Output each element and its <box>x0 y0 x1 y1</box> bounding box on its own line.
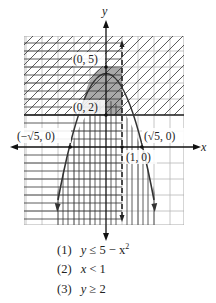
inequality-number: (2) <box>57 262 72 276</box>
point-label-0-2: (0, 2) <box>73 101 98 114</box>
inequality-rhs: 2 <box>99 282 105 296</box>
inequality-op: ≥ <box>89 282 96 296</box>
inequality-exponent: 2 <box>125 242 129 251</box>
arrow-down-icon <box>120 215 125 222</box>
point-marker <box>120 145 124 149</box>
point-label-neg-sqrt5-0: (−√5, 0) <box>17 130 55 143</box>
inequality-3: (3) y ≥ 2 <box>57 282 106 297</box>
inequality-lhs: y <box>81 243 87 257</box>
point-marker <box>68 145 72 149</box>
inequality-lhs: x <box>81 262 87 276</box>
y-axis-arrow-up-icon <box>103 20 109 28</box>
x-axis-arrow-left-icon <box>10 144 18 150</box>
x-axis-arrow-right-icon <box>193 144 201 150</box>
inequality-lhs: y <box>81 282 87 296</box>
point-label-0-5: (0, 5) <box>73 53 98 66</box>
point-label-sqrt5-0: (√5, 0) <box>144 130 175 143</box>
inequality-rhs: 5 − x <box>99 243 125 257</box>
y-axis-label: y <box>101 4 108 18</box>
inequality-number: (1) <box>57 243 72 257</box>
inequality-rhs: 1 <box>100 262 106 276</box>
arrow-up-icon <box>120 40 125 47</box>
inequality-op: ≤ <box>89 243 96 257</box>
inequality-2: (2) x < 1 <box>57 262 106 277</box>
x-axis-label: x <box>200 140 207 154</box>
inequality-op: < <box>89 262 96 276</box>
inequality-number: (3) <box>57 282 72 296</box>
point-marker <box>140 145 144 149</box>
y-axis-arrow-down-icon <box>103 233 109 241</box>
point-label-1-0: (1, 0) <box>126 151 151 164</box>
inequality-1: (1) y ≤ 5 − x2 <box>57 242 129 258</box>
